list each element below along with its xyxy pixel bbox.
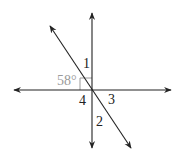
angle-diagram: 1 58° 4 3 2 bbox=[0, 0, 181, 156]
angle-4-label: 4 bbox=[79, 93, 86, 108]
angle-2-label: 2 bbox=[96, 114, 103, 129]
angle-1-label: 1 bbox=[83, 56, 90, 71]
angle-3-label: 3 bbox=[108, 92, 115, 107]
given-angle-label: 58° bbox=[57, 73, 77, 88]
